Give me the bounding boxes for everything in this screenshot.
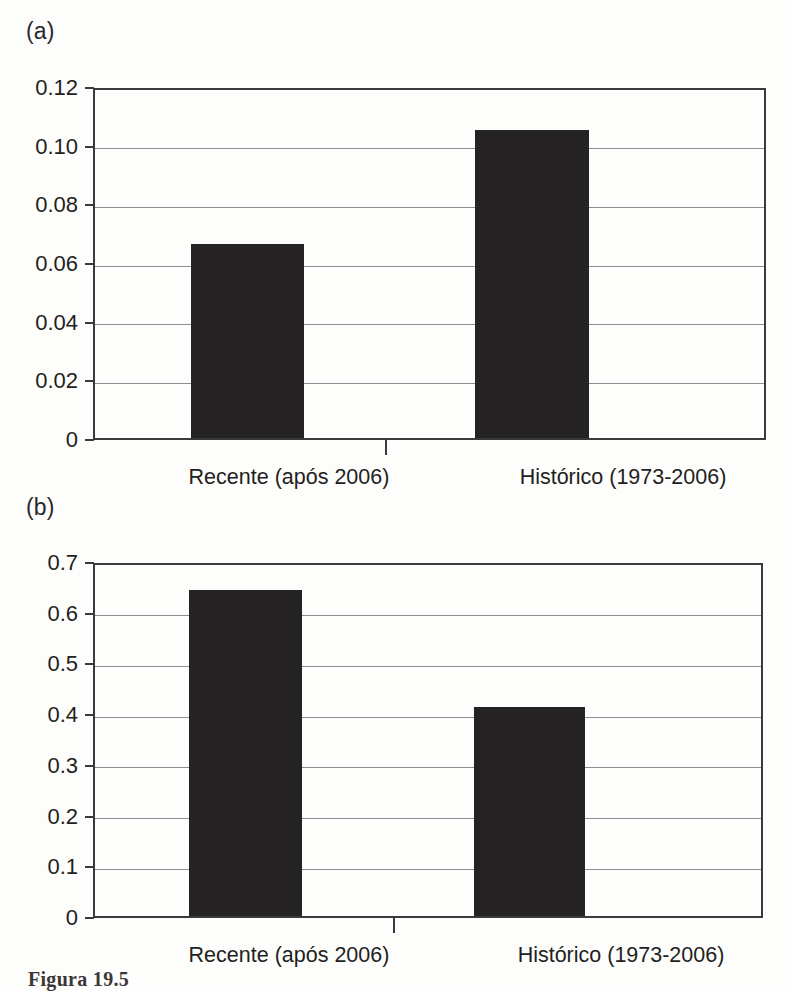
y-axis-tick-label: 0.04 (0, 312, 78, 334)
chart-panel-a: 00.020.040.060.080.100.12Recente (após 2… (0, 60, 793, 490)
panel-b-label: (b) (26, 496, 55, 519)
y-axis-tick-mark (85, 380, 94, 382)
bar-b-1 (189, 590, 302, 916)
figure-caption: Figura 19.5 (28, 968, 129, 991)
gridline (95, 207, 764, 208)
x-axis-category-label: Recente (após 2006) (129, 945, 449, 967)
y-axis-tick-mark (85, 714, 94, 716)
y-axis-tick-label: 0 (0, 907, 78, 929)
y-axis-tick-label: 0.2 (0, 806, 78, 828)
x-axis-category-label: Histórico (1973-2006) (463, 467, 783, 489)
y-axis-tick-mark (85, 765, 94, 767)
y-axis-tick-mark (85, 322, 94, 324)
bar-b-2 (474, 707, 585, 916)
y-axis-tick-mark (85, 439, 94, 441)
y-axis-tick-label: 0.1 (0, 856, 78, 878)
bar-a-2 (475, 130, 589, 438)
y-axis-tick-label: 0.6 (0, 603, 78, 625)
y-axis-tick-mark (85, 917, 94, 919)
y-axis-tick-label: 0.12 (0, 77, 78, 99)
bar-a-1 (191, 244, 304, 438)
plot-area-a (93, 88, 766, 440)
y-axis-tick-mark (85, 613, 94, 615)
gridline (95, 148, 764, 149)
y-axis-tick-label: 0.3 (0, 755, 78, 777)
y-axis-tick-label: 0.06 (0, 253, 78, 275)
y-axis-tick-label: 0 (0, 429, 78, 451)
y-axis-tick-label: 0.02 (0, 370, 78, 392)
y-axis-tick-label: 0.5 (0, 653, 78, 675)
y-axis-tick-mark (85, 562, 94, 564)
y-axis-tick-mark (85, 87, 94, 89)
chart-panel-b: 00.10.20.30.40.50.60.7Recente (após 2006… (0, 535, 793, 990)
panel-a-label: (a) (26, 20, 55, 43)
y-axis-tick-label: 0.4 (0, 704, 78, 726)
y-axis-tick-mark (85, 263, 94, 265)
y-axis-tick-mark (85, 663, 94, 665)
y-axis-tick-mark (85, 146, 94, 148)
plot-area-b (93, 563, 763, 918)
y-axis-tick-label: 0.7 (0, 552, 78, 574)
y-axis-tick-mark (85, 866, 94, 868)
y-axis-tick-label: 0.10 (0, 136, 78, 158)
y-axis-tick-label: 0.08 (0, 194, 78, 216)
x-axis-category-label: Histórico (1973-2006) (461, 945, 781, 967)
y-axis-tick-mark (85, 816, 94, 818)
y-axis-tick-mark (85, 204, 94, 206)
x-axis-tick-mark (393, 918, 395, 933)
x-axis-category-label: Recente (após 2006) (129, 467, 449, 489)
x-axis-tick-mark (385, 440, 387, 455)
